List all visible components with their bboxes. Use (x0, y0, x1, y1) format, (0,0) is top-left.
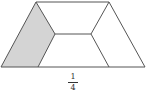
fraction-label: 1 4 (66, 73, 80, 92)
inner-divider-right (91, 2, 109, 67)
shaded-part (1, 2, 55, 67)
fraction-numerator: 1 (66, 73, 80, 81)
fraction-denominator: 4 (66, 84, 80, 92)
